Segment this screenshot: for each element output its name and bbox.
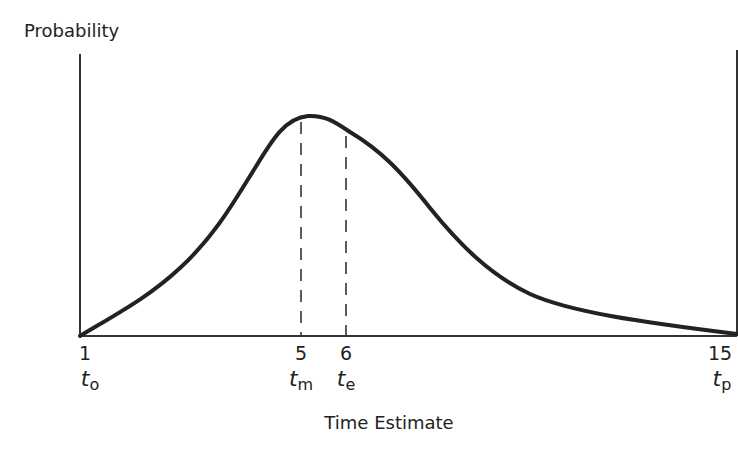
symbol-t-p: tp (713, 366, 732, 394)
tick-label-5: 5 (295, 342, 307, 364)
probability-curve (80, 116, 737, 336)
x-axis-label: Time Estimate (0, 412, 738, 433)
chart-plot (0, 0, 738, 450)
tick-label-6: 6 (340, 342, 352, 364)
symbol-t-m: tm (289, 366, 313, 394)
tick-label-15: 15 (708, 342, 732, 364)
symbol-t-o: to (81, 366, 99, 394)
symbol-t-e: te (337, 366, 355, 394)
tick-label-1: 1 (79, 342, 91, 364)
